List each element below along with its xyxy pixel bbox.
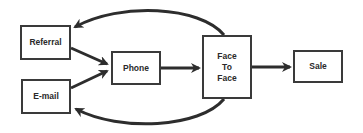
node-sale-label: Sale (309, 61, 327, 72)
node-face-to-face: Face To Face (202, 35, 252, 99)
arrow-face-to-referral (75, 11, 224, 35)
node-face-to-face-label: Face To Face (217, 51, 236, 84)
node-referral: Referral (20, 25, 71, 60)
node-phone: Phone (111, 51, 161, 85)
sales-funnel-diagram: Referral E-mail Phone Face To Face Sale (0, 0, 363, 133)
arrow-face-to-email (76, 99, 224, 124)
node-phone-label: Phone (123, 63, 149, 74)
node-email: E-mail (21, 79, 71, 114)
node-email-label: E-mail (33, 91, 59, 102)
arrow-referral-to-phone (71, 48, 107, 64)
arrow-email-to-phone (71, 71, 107, 88)
node-referral-label: Referral (29, 37, 61, 48)
node-sale: Sale (293, 50, 343, 83)
